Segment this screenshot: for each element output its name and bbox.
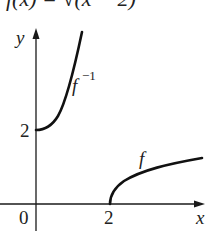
header-partial-text: f(x) = √(x − 2) <box>6 0 136 11</box>
y-axis-label: y <box>14 27 25 48</box>
y-tick-label-2: 2 <box>20 120 30 141</box>
f-curve-label: f <box>139 148 147 169</box>
x-tick-label-2: 2 <box>104 207 114 228</box>
f-curve <box>110 158 202 204</box>
function-inverse-graph: f(x) = √(x − 2) y x 0 2 2 f f −1 <box>0 0 213 231</box>
x-axis-label: x <box>195 207 205 228</box>
origin-label: 0 <box>19 207 29 228</box>
f-inverse-curve-label: f <box>72 75 80 96</box>
y-axis-arrow-icon <box>33 28 40 39</box>
f-inverse-superscript: −1 <box>82 68 96 83</box>
